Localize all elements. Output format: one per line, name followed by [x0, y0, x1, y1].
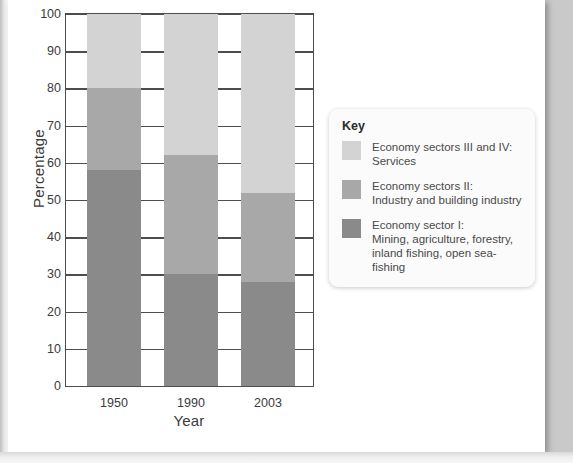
legend-swatch-services	[342, 141, 361, 160]
legend-label-line2: Services	[372, 154, 512, 168]
segment-industry	[241, 193, 295, 282]
legend-item-industry[interactable]: Economy sectors II: Industry and buildin…	[342, 179, 523, 207]
y-tick-label: 80	[47, 81, 61, 95]
legend-label-line2: Industry and building industry	[372, 193, 522, 207]
legend-label-line1: Economy sectors III and IV:	[372, 140, 512, 154]
y-tick-label: 50	[47, 193, 61, 207]
segment-services	[164, 14, 218, 155]
legend-item-services[interactable]: Economy sectors III and IV: Services	[342, 140, 523, 168]
y-tick-label: 90	[47, 44, 61, 58]
x-tick-label: 1990	[164, 396, 218, 410]
y-tick-label: 60	[47, 156, 61, 170]
segment-primary	[164, 274, 218, 386]
segment-services	[87, 14, 141, 88]
legend-label: Economy sectors II: Industry and buildin…	[372, 179, 522, 207]
segment-industry	[87, 88, 141, 170]
bar-1990[interactable]: 1990	[164, 14, 218, 386]
legend-title: Key	[342, 119, 523, 133]
bar-2003[interactable]: 2003	[241, 14, 295, 386]
legend-label-line1: Economy sector I:	[372, 218, 523, 232]
legend-swatch-industry	[342, 180, 361, 199]
segment-primary	[241, 282, 295, 386]
y-tick-label: 0	[54, 379, 61, 393]
page-left-edge	[0, 0, 8, 452]
segment-primary	[87, 170, 141, 386]
x-axis-title: Year	[64, 412, 314, 429]
bar-1950[interactable]: 1950	[87, 14, 141, 386]
legend-swatch-primary	[342, 219, 361, 238]
y-tick-label: 10	[47, 342, 61, 356]
y-tick-label: 40	[47, 230, 61, 244]
y-axis-title: Percentage	[30, 79, 47, 259]
legend-label-line1: Economy sectors II:	[372, 179, 522, 193]
y-tick-label: 30	[47, 267, 61, 281]
legend: Key Economy sectors III and IV: Services…	[329, 109, 535, 287]
x-tick-label: 1950	[87, 396, 141, 410]
plot-area: 100 90 80 70 60 50 40 30	[65, 13, 314, 387]
segment-industry	[164, 155, 218, 274]
page-caption	[14, 454, 314, 463]
stacked-bar-chart: Percentage 100 90 80 70 60 50 40	[8, 0, 545, 452]
y-tick-label: 20	[47, 305, 61, 319]
y-tick-label: 70	[47, 119, 61, 133]
legend-label-line3: inland fishing, open sea-fishing	[372, 246, 523, 274]
legend-label: Economy sector I: Mining, agriculture, f…	[372, 218, 523, 274]
x-tick-label: 2003	[241, 396, 295, 410]
legend-label-line2: Mining, agriculture, forestry,	[372, 232, 523, 246]
legend-item-primary[interactable]: Economy sector I: Mining, agriculture, f…	[342, 218, 523, 274]
segment-services	[241, 14, 295, 193]
legend-label: Economy sectors III and IV: Services	[372, 140, 512, 168]
y-tick-label: 100	[40, 7, 61, 21]
